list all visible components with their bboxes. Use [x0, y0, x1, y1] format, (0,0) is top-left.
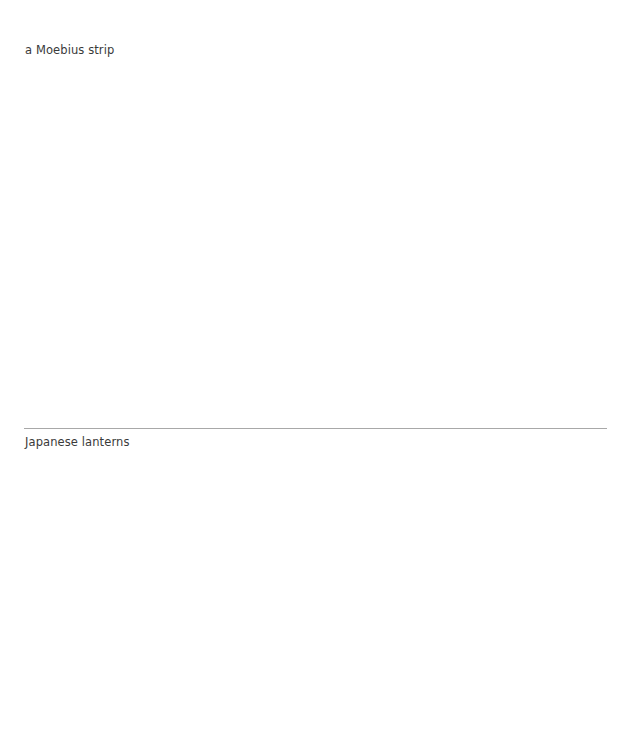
caption-label: a Moebius strip [25, 43, 114, 57]
caption-label: Japanese lanterns [25, 435, 130, 449]
image-placeholder [24, 457, 607, 737]
image-placeholder [24, 64, 607, 420]
item-japanese-lanterns: Japanese lanterns [0, 429, 623, 737]
item-moebius-strip: a Moebius strip [0, 0, 623, 428]
